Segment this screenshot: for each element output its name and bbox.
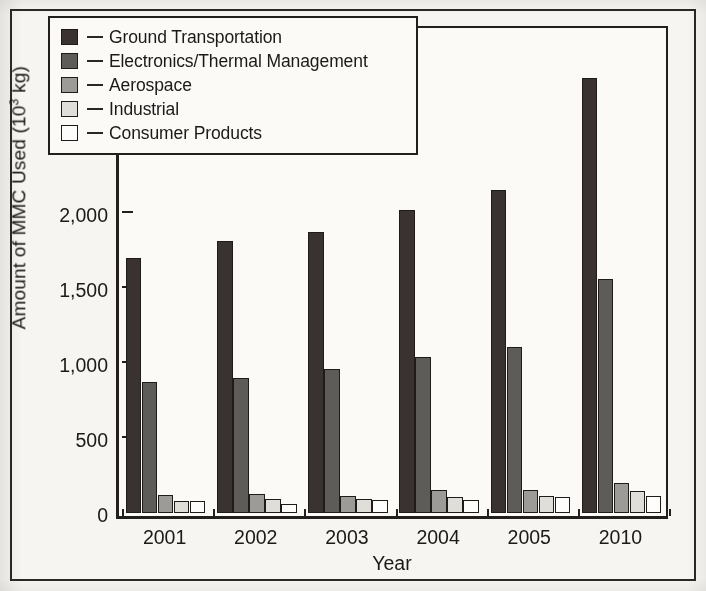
bar	[598, 279, 614, 513]
bar	[630, 491, 646, 513]
x-axis-tick-label: 2003	[301, 526, 392, 549]
x-axis-tick-label: 2010	[575, 526, 666, 549]
bar	[614, 483, 630, 513]
y-axis-tick-label: 1,000	[16, 354, 108, 377]
legend-swatch	[61, 77, 78, 93]
legend-label: Ground Transportation	[109, 27, 282, 48]
legend-item: Industrial	[61, 97, 407, 121]
legend-dash-icon	[87, 60, 103, 62]
y-axis-tick-label: 1,500	[16, 279, 108, 302]
legend-label: Electronics/Thermal Management	[109, 51, 368, 72]
legend-swatch	[61, 101, 78, 117]
bar	[646, 496, 662, 513]
legend-item: Consumer Products	[61, 121, 407, 145]
legend-label: Consumer Products	[109, 123, 262, 144]
legend-dash-icon	[87, 132, 103, 134]
x-axis-title: Year	[116, 552, 668, 575]
legend-dash-icon	[87, 36, 103, 38]
legend-dash-icon	[87, 108, 103, 110]
legend-swatch	[61, 53, 78, 69]
x-axis-tick	[669, 509, 671, 516]
x-axis-tick-label: 2004	[393, 526, 484, 549]
legend-label: Aerospace	[109, 75, 192, 96]
chart-legend: Ground TransportationElectronics/Thermal…	[48, 16, 418, 155]
legend-swatch	[61, 29, 78, 45]
legend-swatch	[61, 125, 78, 141]
x-axis-tick-label: 2001	[119, 526, 210, 549]
legend-item: Ground Transportation	[61, 25, 407, 49]
legend-dash-icon	[87, 84, 103, 86]
legend-rows: Ground TransportationElectronics/Thermal…	[61, 25, 407, 145]
legend-label: Industrial	[109, 99, 179, 120]
x-axis-tick-label: 2005	[484, 526, 575, 549]
y-axis-tick-label: 0	[16, 504, 108, 527]
x-axis-tick-label: 2002	[210, 526, 301, 549]
legend-item: Aerospace	[61, 73, 407, 97]
y-axis-title-exponent: 3	[7, 98, 21, 105]
figure-container: Amount of MMC Used (103 kg) 05001,0001,5…	[0, 0, 706, 591]
bar	[582, 78, 598, 513]
legend-item: Electronics/Thermal Management	[61, 49, 407, 73]
y-axis-tick-label: 500	[16, 429, 108, 452]
y-axis-title: Amount of MMC Used (103 kg)	[7, 33, 30, 363]
y-axis-tick-label: 2,000	[16, 204, 108, 227]
